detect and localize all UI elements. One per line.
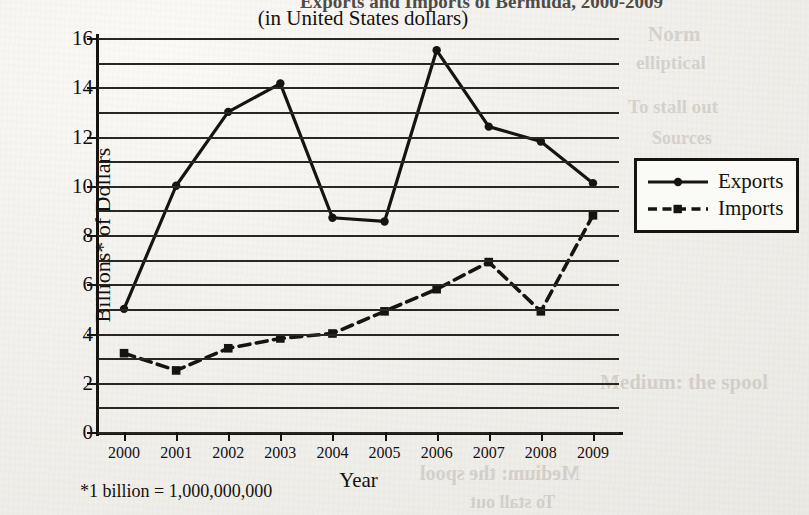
x-tick-mark [124,432,126,441]
data-point-imports-2001 [172,366,181,375]
x-tick-mark [176,432,178,441]
gridline [98,334,619,336]
footnote: *1 billion = 1,000,000,000 [80,481,272,502]
x-tick-label: 2008 [525,444,557,462]
legend-item-exports: Exports [647,168,783,195]
x-tick-label: 2002 [212,444,244,462]
x-tick-mark [437,432,439,441]
x-tick-label: 2003 [264,444,296,462]
y-tick-mark [87,38,98,40]
x-tick-label: 2005 [369,444,401,462]
gridline [98,309,619,311]
x-tick-label: 2007 [473,444,505,462]
data-point-exports-2004 [328,214,336,222]
gridline [98,87,619,89]
y-tick-mark [87,137,98,139]
x-tick-mark [489,432,491,441]
gridline [98,358,619,360]
gridline [98,186,619,188]
x-tick-label: 2001 [160,444,192,462]
chart-subtitle: (in United States dollars) [148,6,578,31]
y-tick-mark [87,383,98,385]
data-point-imports-2000 [120,349,129,358]
gridline [98,284,619,286]
gridline [98,383,619,385]
gridline [98,137,619,139]
x-tick-mark [541,432,543,441]
y-tick-mark [87,432,98,434]
x-tick-mark [385,432,387,441]
gridline [98,63,619,65]
gridline [98,210,619,212]
x-tick-label: 2000 [108,444,140,462]
legend-label-imports: Imports [718,196,783,221]
y-tick-mark [87,334,98,336]
legend-item-imports: Imports [647,195,783,222]
gridline [98,407,619,409]
y-axis-title: Billions* of Dollars [90,148,116,323]
x-tick-label: 2004 [316,444,348,462]
x-tick-label: 2009 [577,444,609,462]
gridline [98,161,619,163]
data-point-imports-2002 [224,344,233,353]
legend: Exports Imports [634,158,799,233]
x-tick-mark [280,432,282,441]
gridline [98,260,619,262]
legend-swatch-solid-circle [647,175,709,189]
gridline [98,235,619,237]
data-point-exports-2006 [432,46,440,54]
x-tick-mark [228,432,230,441]
legend-label-exports: Exports [718,169,783,194]
x-tick-mark [332,432,334,441]
x-axis-title: Year [339,468,378,493]
data-point-exports-2007 [485,122,493,130]
x-tick-label: 2006 [421,444,453,462]
series-line-imports [124,215,593,370]
y-tick-mark [87,87,98,89]
data-point-exports-2005 [380,217,388,225]
gridline [98,38,619,40]
plot-area: 0246810121416 20002001200220032004200520… [98,38,619,432]
legend-swatch-dashed-square [647,202,709,216]
x-tick-mark [593,432,595,441]
gridline [98,112,619,114]
